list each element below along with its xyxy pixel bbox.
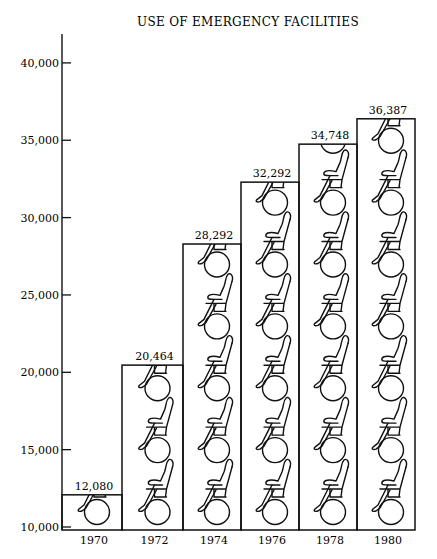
wheelchair-icon <box>139 459 173 524</box>
wheelchair-icon <box>198 274 232 339</box>
wheelchair-icon <box>372 150 406 215</box>
wheelchair-icon <box>314 459 348 524</box>
wheelchair-icon-stack <box>139 336 173 525</box>
wheelchair-icon <box>198 459 232 524</box>
pictograph-chart: USE OF EMERGENCY FACILITIES 10,00015,000… <box>0 0 437 559</box>
wheelchair-icon <box>139 336 173 401</box>
wheelchair-icon <box>372 88 406 153</box>
wheelchair-icon-stack <box>256 150 290 525</box>
wheelchair-icon <box>256 274 290 339</box>
wheelchair-icon <box>372 336 406 401</box>
bar-1972: 20,4641972 <box>122 336 183 547</box>
bar-outline <box>183 244 241 530</box>
x-tick-label: 1980 <box>374 534 402 547</box>
value-label: 32,292 <box>253 167 292 180</box>
wheelchair-icon-stack <box>314 88 348 524</box>
wheelchair-icon <box>314 212 348 277</box>
value-label: 20,464 <box>135 350 174 363</box>
x-tick-label: 1978 <box>316 534 344 547</box>
y-axis-ticks: 10,00015,00020,00025,00030,00035,00040,0… <box>21 57 72 534</box>
x-tick-label: 1972 <box>141 534 169 547</box>
wheelchair-icon <box>256 336 290 401</box>
bar-1974: 28,2921974 <box>183 212 241 547</box>
y-tick-label: 20,000 <box>21 366 60 379</box>
value-label: 34,748 <box>311 129 350 142</box>
wheelchair-icon-stack <box>198 212 232 525</box>
value-label: 12,080 <box>75 480 114 493</box>
y-tick-label: 30,000 <box>21 212 60 225</box>
wheelchair-icon <box>256 398 290 463</box>
wheelchair-icon-stack <box>372 88 406 524</box>
y-tick-label: 35,000 <box>21 134 60 147</box>
wheelchair-icon <box>372 459 406 524</box>
bar-1978: 34,7481978 <box>299 88 357 547</box>
y-tick-label: 25,000 <box>21 289 60 302</box>
y-tick-label: 40,000 <box>21 57 60 70</box>
wheelchair-icon <box>256 212 290 277</box>
bar-outline <box>122 365 183 530</box>
y-tick-label: 15,000 <box>21 444 60 457</box>
wheelchair-icon <box>198 336 232 401</box>
bars: 12,080197020,464197228,292197432,2921976… <box>62 88 415 547</box>
wheelchair-icon <box>314 274 348 339</box>
bar-1970: 12,0801970 <box>62 459 122 547</box>
wheelchair-icon <box>139 398 173 463</box>
wheelchair-icon <box>314 150 348 215</box>
x-tick-label: 1970 <box>80 534 108 547</box>
wheelchair-icon <box>256 459 290 524</box>
wheelchair-icon <box>314 336 348 401</box>
wheelchair-icon <box>314 398 348 463</box>
value-label: 36,387 <box>369 104 408 117</box>
wheelchair-icon <box>372 274 406 339</box>
bar-1976: 32,2921976 <box>241 150 299 547</box>
value-label: 28,292 <box>195 229 234 242</box>
y-tick-label: 10,000 <box>21 521 60 534</box>
wheelchair-icon <box>198 398 232 463</box>
chart-title: USE OF EMERGENCY FACILITIES <box>137 15 359 29</box>
x-tick-label: 1976 <box>258 534 286 547</box>
wheelchair-icon <box>372 212 406 277</box>
wheelchair-icon <box>372 398 406 463</box>
bar-1980: 36,3871980 <box>357 88 415 547</box>
x-tick-label: 1974 <box>200 534 228 547</box>
